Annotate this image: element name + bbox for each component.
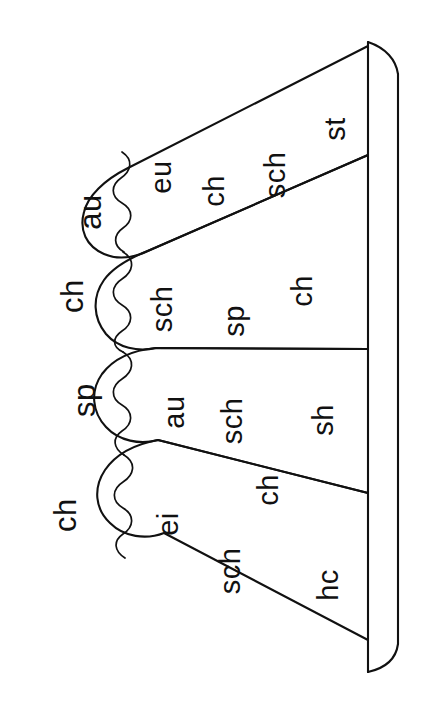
label-f4-ch: ch: [252, 474, 284, 506]
label-f4-sch: sch: [214, 548, 246, 595]
label-f2-ch: ch: [286, 275, 318, 307]
canvas-background: [0, 0, 431, 727]
label-f2-tip: ch: [55, 279, 90, 313]
label-f1-sch: sch: [259, 152, 291, 199]
label-f3-sh: sh: [307, 404, 339, 436]
label-f2-sch: sch: [146, 286, 178, 333]
label-f2-sp: sp: [218, 305, 250, 337]
label-f1-tip: au: [73, 194, 108, 229]
label-f1-ch: ch: [198, 175, 230, 207]
label-f3-au: au: [158, 395, 190, 428]
label-f1-eu: eu: [145, 160, 177, 193]
label-f3-sch: sch: [216, 398, 248, 445]
label-f3-tip: sp: [67, 383, 102, 417]
label-f4-tip: ch: [48, 498, 83, 532]
label-f1-st: st: [319, 117, 351, 141]
label-f4-hc: hc: [312, 569, 344, 601]
figure-canvas: au eu ch sch st ch sch sp ch sp au sch s…: [0, 0, 431, 727]
finger-2-3-separator: [156, 348, 368, 349]
label-f4-ei: ei: [152, 512, 184, 536]
hand-diagram: au eu ch sch st ch sch sp ch sp au sch s…: [0, 0, 431, 727]
